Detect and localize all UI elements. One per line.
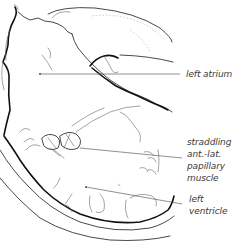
- left-wall: [2, 5, 18, 135]
- label-papillary-line-1: straddling: [187, 136, 231, 148]
- label-ventricle-line-2: ventricle: [189, 205, 227, 217]
- label-papillary-line-3: papillary: [187, 160, 231, 172]
- atrial-roof: [18, 12, 172, 112]
- label-left-atrium: left atrium: [186, 68, 232, 80]
- label-papillary-line-2: ant.-lat.: [187, 148, 231, 160]
- label-papillary-muscle: straddling ant.-lat. papillary muscle: [187, 136, 231, 184]
- label-papillary-line-4: muscle: [187, 172, 231, 184]
- outer-outline: [48, 8, 173, 62]
- label-left-ventricle: left ventricle: [189, 193, 227, 217]
- label-ventricle-line-1: left: [189, 193, 227, 205]
- papillary-cluster: [20, 106, 159, 174]
